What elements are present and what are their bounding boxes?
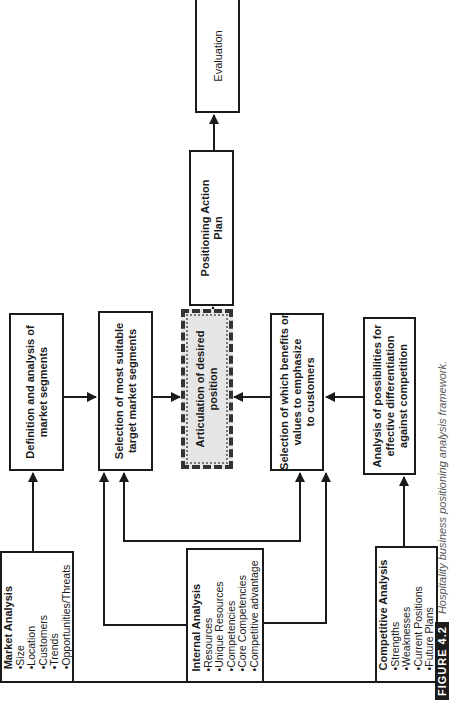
analysis-differentiation-label: Analysis of possibilities for effective … [370,324,409,467]
evaluation-box: Evaluation [195,0,240,113]
label-line: market segments [37,325,50,458]
label-line: Evaluation [211,30,224,81]
competitive-analysis-item: •Future Plans [424,559,436,670]
competitive-analysis-title: Competitive Analysis [378,559,390,670]
label-line: to customers [304,314,317,470]
market-analysis-content: Market Analysis •Size •Location •Custome… [3,565,72,670]
label-line: Definition and analysis of [24,325,37,458]
evaluation-label: Evaluation [211,30,224,81]
articulation-label: Articulation of desired position [194,331,220,448]
label-line: values to emphasize [291,314,304,470]
internal-analysis-content: Internal Analysis •Resources •Unique Res… [191,560,260,671]
internal-analysis-box: Internal Analysis •Resources •Unique Res… [186,548,264,683]
competitive-analysis-content: Competitive Analysis •Strengths •Weaknes… [378,559,436,670]
analysis-differentiation-box: Analysis of possibilities for effective … [363,317,416,475]
internal-analysis-item: •Competitive advantage [248,560,260,671]
label-line: Positioning Action [199,180,212,277]
selection-target-label: Selection of most suitable target market… [113,323,139,459]
action-plan-label: Positioning Action Plan [199,180,225,277]
market-analysis-box: Market Analysis •Size •Location •Custome… [0,551,74,683]
market-analysis-item: •Location [26,565,38,670]
label-line: Articulation of desired [194,331,207,448]
label-line: Selection of which benefits or [278,314,291,470]
label-line: Analysis of possibilities for [370,324,383,467]
label-line: effective differentiation [383,324,396,467]
internal-analysis-item: •Core Competencies [237,560,249,671]
market-analysis-title: Market Analysis [3,565,15,670]
figure-caption: FIGURE 4.2Hospitality business positioni… [436,361,448,700]
internal-analysis-title: Internal Analysis [191,560,203,671]
label-line: target market segments [126,323,139,459]
market-analysis-item: •Trends [49,565,61,670]
definition-segments-label: Definition and analysis of market segmen… [24,325,50,458]
competitive-analysis-item: •Strengths [389,559,401,670]
definition-segments-box: Definition and analysis of market segmen… [9,313,64,471]
figure-label: FIGURE 4.2 [435,622,449,700]
selection-benefits-box: Selection of which benefits or values to… [270,313,324,471]
competitive-analysis-box: Competitive Analysis •Strengths •Weaknes… [375,546,438,683]
label-line: Selection of most suitable [113,323,126,459]
selection-target-box: Selection of most suitable target market… [98,311,153,471]
label-line: against competition [396,324,409,467]
competitive-analysis-item: •Weaknesses [401,559,413,670]
label-line: Plan [212,180,225,277]
figure-description: Hospitality business positioning analysi… [436,361,448,614]
action-plan-box: Positioning Action Plan [189,150,234,306]
selection-benefits-label: Selection of which benefits or values to… [278,314,317,470]
market-analysis-item: •Opportunities/Threats [60,565,72,670]
articulation-box: Articulation of desired position [181,309,233,469]
label-line: position [207,331,220,448]
competitive-analysis-item: •Current Positions [412,559,424,670]
internal-analysis-item: •Unique Resources [214,560,226,671]
